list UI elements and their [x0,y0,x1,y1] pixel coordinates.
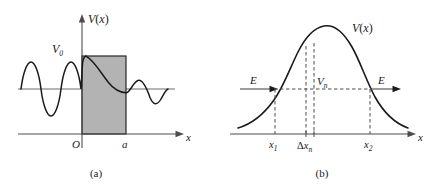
energy-arrow-right [393,86,402,92]
incident-wave-curve [21,56,86,116]
slice-width-label: Δxn [297,140,312,154]
panel-b-x-axis-label: x [417,131,423,143]
transmitted-wave-curve [126,80,168,103]
panel-a-square-barrier: V(x) V0 O a x (a) [0,0,218,189]
potential-barrier-rect [82,56,126,134]
panel-b-x-axis-arrowhead [408,131,417,137]
panel-a-svg: V(x) V0 O a x (a) [0,0,218,189]
slice-potential-label: Vn [317,75,328,90]
barrier-height-label: V0 [52,42,63,58]
panel-a-v-axis-label: V(x) [88,12,109,26]
panel-b-smooth-barrier: V(x) E E Vn x1 Δxn x2 x (b) [218,0,436,189]
panel-b-svg: V(x) E E Vn x1 Δxn x2 x (b) [218,0,436,189]
energy-label-right: E [377,74,385,86]
panel-a-caption: (a) [90,167,103,180]
turning-point-x1-label: x1 [268,139,277,153]
barrier-width-label: a [122,138,128,150]
x-axis-arrowhead [176,131,185,137]
energy-label-left: E [249,74,257,86]
panel-b-curve-label: V(x) [352,21,373,35]
origin-label: O [72,138,80,150]
panel-a-x-axis-label: x [185,131,191,143]
v-axis-arrowhead [79,14,85,23]
panel-b-caption: (b) [316,167,329,180]
turning-point-x2-label: x2 [363,139,373,153]
figure-root: V(x) V0 O a x (a) [0,0,436,189]
